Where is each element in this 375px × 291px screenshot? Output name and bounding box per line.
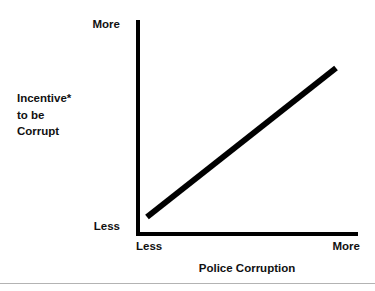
trend-line	[147, 68, 336, 217]
bottom-divider	[0, 283, 375, 284]
x-axis-max-label: More	[278, 239, 360, 253]
y-axis-title: Incentive* to be Corrupt	[17, 90, 127, 140]
chart-figure: More Less Incentive* to be Corrupt Less …	[0, 0, 375, 291]
x-axis-min-label: Less	[136, 239, 162, 253]
y-axis-max-label: More	[40, 17, 120, 31]
x-axis-title: Police Corruption	[136, 261, 358, 275]
y-axis-min-label: Less	[40, 219, 120, 233]
